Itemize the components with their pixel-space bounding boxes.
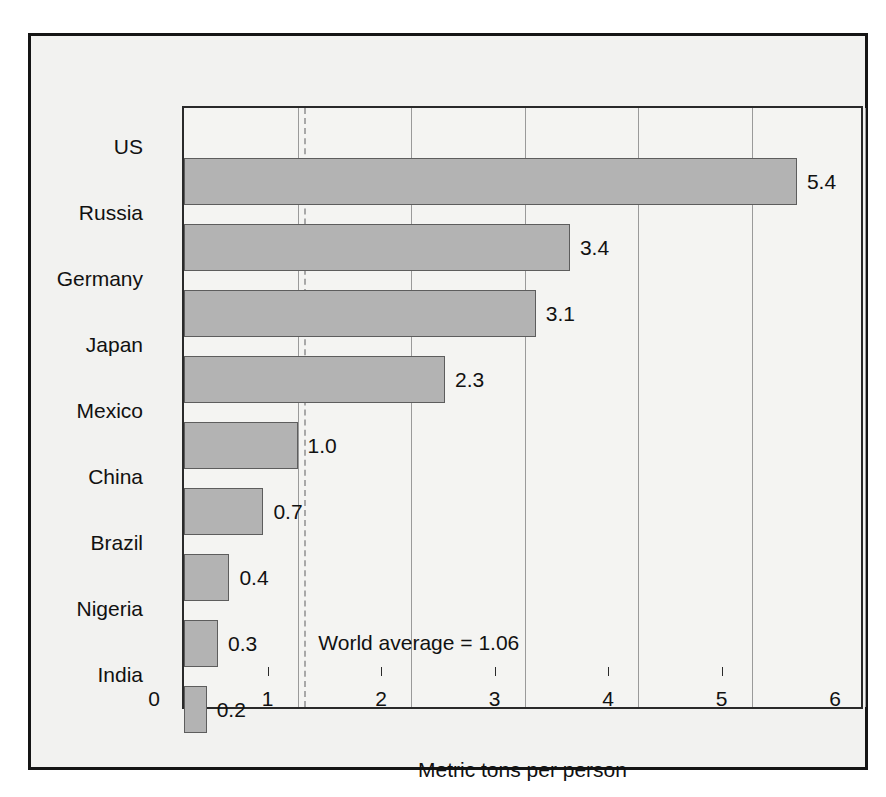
- x-axis-title: Metric tons per person: [182, 758, 863, 782]
- bar: [184, 422, 298, 469]
- bar-value-label: 2.3: [455, 368, 484, 392]
- bar-value-label: 0.3: [228, 632, 257, 656]
- bar: [184, 488, 263, 535]
- category-label: Mexico: [3, 399, 143, 423]
- bar-row: 3.4: [184, 224, 865, 271]
- plot-area: 5.43.43.12.31.00.70.40.30.2 World averag…: [182, 106, 863, 709]
- x-axis-tick-label: 2: [375, 687, 387, 711]
- bar-row: 3.1: [184, 290, 865, 337]
- category-label: Brazil: [3, 531, 143, 555]
- x-axis-tick: [495, 667, 496, 676]
- bar-value-label: 1.0: [308, 434, 337, 458]
- x-axis-tick-label: 5: [716, 687, 728, 711]
- bar-value-label: 3.1: [546, 302, 575, 326]
- gridline: [865, 108, 866, 707]
- bar: [184, 554, 229, 601]
- bar: [184, 356, 445, 403]
- category-label: Nigeria: [3, 597, 143, 621]
- bar-row: 5.4: [184, 158, 865, 205]
- x-axis-tick: [268, 667, 269, 676]
- category-label: Japan: [3, 333, 143, 357]
- bar-value-label: 0.2: [217, 698, 246, 722]
- bar-row: 0.2: [184, 686, 865, 733]
- x-axis-tick: [608, 667, 609, 676]
- category-label: US: [3, 135, 143, 159]
- x-axis-tick: [722, 667, 723, 676]
- x-axis-tick-label: 6: [829, 687, 841, 711]
- bar-value-label: 5.4: [807, 170, 836, 194]
- chart-frame: 5.43.43.12.31.00.70.40.30.2 World averag…: [28, 33, 868, 770]
- world-average-annotation: World average = 1.06: [318, 631, 519, 655]
- x-axis-tick-label: 1: [262, 687, 274, 711]
- category-label: India: [3, 663, 143, 687]
- category-label: Russia: [3, 201, 143, 225]
- bar-value-label: 0.7: [273, 500, 302, 524]
- bar: [184, 224, 570, 271]
- bar-row: 0.4: [184, 554, 865, 601]
- bar-value-label: 3.4: [580, 236, 609, 260]
- bar-value-label: 0.4: [239, 566, 268, 590]
- bar: [184, 686, 207, 733]
- bar-row: 0.3: [184, 620, 865, 667]
- bar: [184, 620, 218, 667]
- category-label: Germany: [3, 267, 143, 291]
- x-axis-tick-label: 4: [602, 687, 614, 711]
- bar: [184, 290, 536, 337]
- figure: 5.43.43.12.31.00.70.40.30.2 World averag…: [0, 0, 886, 797]
- bar-row: 2.3: [184, 356, 865, 403]
- bar: [184, 158, 797, 205]
- x-axis-tick-label: 0: [148, 687, 160, 711]
- bar-row: 1.0: [184, 422, 865, 469]
- x-axis-tick-label: 3: [489, 687, 501, 711]
- x-axis-tick: [381, 667, 382, 676]
- bar-row: 0.7: [184, 488, 865, 535]
- category-label: China: [3, 465, 143, 489]
